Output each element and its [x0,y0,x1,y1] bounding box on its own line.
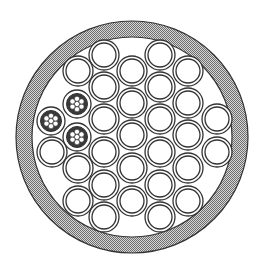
conductor-core [148,75,172,99]
cable-cross-section-diagram [0,0,263,272]
conductor-core [176,123,200,147]
conductor-core [176,91,200,115]
insulated-conductor [89,40,119,70]
insulated-conductor [117,56,147,86]
conductor-core [205,140,229,164]
insulated-conductor [145,72,175,102]
insulated-conductor [173,120,203,150]
insulated-conductor [89,104,119,134]
conductor-core [120,59,144,83]
insulated-conductor [202,104,232,134]
conductor-core [148,205,172,229]
conductor-core [148,107,172,131]
stranded-conductor [63,123,91,151]
insulated-conductor [117,120,147,150]
conductor-core [176,189,200,213]
conductor-core [148,140,172,164]
insulated-conductor [117,153,147,183]
insulated-conductor [117,88,147,118]
stranded-conductor [37,107,65,135]
insulated-conductor [145,40,175,70]
insulated-conductor [145,202,175,232]
cable-cross-section-svg [0,0,263,272]
strand-wire [70,104,75,109]
insulated-conductor [173,186,203,216]
insulated-conductor [89,170,119,200]
insulated-conductor [63,153,93,183]
conductor-core [92,43,116,67]
insulated-conductor [145,104,175,134]
conductor-core [205,107,229,131]
strand-wire [79,132,84,137]
conductor-core [120,123,144,147]
stranded-conductor [63,90,91,118]
strand-wire [79,99,84,104]
conductor-core [66,189,90,213]
conductor-core [92,205,116,229]
insulated-conductor [37,137,67,167]
conductor-core [92,173,116,197]
insulated-conductor [89,202,119,232]
insulated-conductor [173,88,203,118]
conductor-core [92,75,116,99]
insulated-conductor [173,56,203,86]
conductor-core [176,59,200,83]
insulated-conductor [89,137,119,167]
insulated-conductor [173,153,203,183]
conductor-core [66,156,90,180]
insulated-conductor [145,137,175,167]
conductor-core [120,189,144,213]
conductor-core [176,156,200,180]
conductor-core [66,59,90,83]
conductor-core [92,140,116,164]
strand-wire [53,116,58,121]
strand-wire [70,137,75,142]
insulated-conductor [117,186,147,216]
insulated-conductor [145,170,175,200]
insulated-conductor [202,137,232,167]
conductor-core [120,91,144,115]
strand-wire [44,121,49,126]
conductor-core [148,173,172,197]
insulated-conductor [89,72,119,102]
conductor-core [92,107,116,131]
conductor-core [120,156,144,180]
insulated-conductor [63,56,93,86]
insulated-conductor [63,186,93,216]
conductor-core [148,43,172,67]
conductor-core [40,140,64,164]
